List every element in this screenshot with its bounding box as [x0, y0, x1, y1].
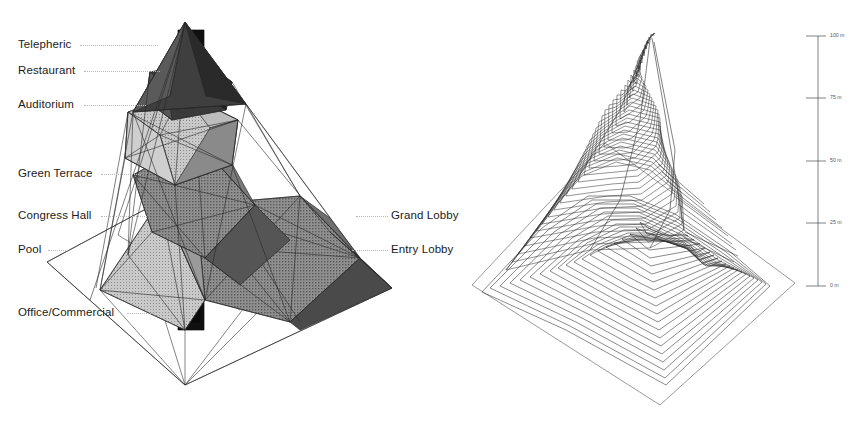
scale-tick-label-3: 25 m: [830, 220, 842, 225]
programme-label-leader-0: [80, 45, 158, 46]
scale-tick-label-4: 0 m: [830, 283, 839, 288]
programme-label-5: Pool: [18, 244, 41, 256]
scale-tick-label-1: 75 m: [830, 95, 842, 100]
programme-label-leader-3: [101, 174, 141, 175]
programme-label-0: Telepheric: [18, 39, 71, 51]
programme-label-3: Green Terrace: [18, 168, 93, 180]
programme-label-right-leader-1: [352, 250, 388, 251]
diagram-canvas: 100 m75 m50 m25 m0 m TelephericRestauran…: [0, 0, 858, 424]
programme-label-right-leader-0: [356, 216, 388, 217]
programme-label-2: Auditorium: [18, 99, 74, 111]
programme-label-leader-5: [48, 250, 68, 251]
programme-label-leader-2: [84, 105, 146, 106]
programme-label-right-1: Entry Lobby: [391, 244, 453, 256]
programme-label-4: Congress Hall: [18, 210, 92, 222]
programme-label-right-0: Grand Lobby: [391, 210, 459, 222]
scale-tick-label-2: 50 m: [830, 158, 842, 163]
programme-label-6: Office/Commercial: [18, 307, 114, 319]
programme-label-1: Restaurant: [18, 65, 75, 77]
programme-label-leader-4: [101, 216, 147, 217]
programme-label-leader-1: [84, 71, 160, 72]
height-scale-bar: [798, 0, 858, 424]
scale-tick-label-0: 100 m: [830, 33, 844, 38]
programme-label-leader-6: [127, 313, 155, 314]
